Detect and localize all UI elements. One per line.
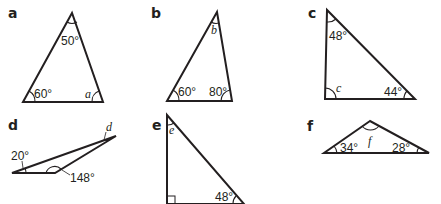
triangle-a: a 50° 60° a <box>8 5 103 102</box>
angle-label-b-left: 60° <box>178 85 196 99</box>
angle-arc-c-left <box>325 88 336 99</box>
triangles-figure: a 50° 60° a b b 60° 80° c 48° c 44° d <box>0 0 441 204</box>
angle-arc-a-right <box>92 91 99 102</box>
angle-label-c-right: 44° <box>384 85 402 99</box>
triangle-d: d 20° 148° d <box>8 117 116 185</box>
part-label-f: f <box>307 118 314 134</box>
angle-arc-a-top <box>67 22 77 23</box>
angle-label-f-top: f <box>368 134 373 148</box>
triangle-c: c 48° c 44° <box>308 5 415 99</box>
right-angle-marker-e <box>167 196 175 204</box>
angle-arc-e-right <box>233 196 236 204</box>
triangle-b: b b 60° 80° <box>151 5 232 101</box>
part-label-b: b <box>151 5 161 21</box>
part-label-d: d <box>8 117 18 133</box>
triangle-f: f f 34° 28° <box>307 118 429 155</box>
angle-label-b-top: b <box>211 23 217 37</box>
angle-label-a-top: 50° <box>61 34 79 48</box>
angle-label-c-left: c <box>336 81 342 95</box>
part-label-a: a <box>8 5 17 21</box>
angle-label-a-left: 60° <box>34 87 52 101</box>
triangle-e: e e 48° <box>152 115 244 204</box>
angle-arc-f-left <box>334 146 337 153</box>
part-label-c: c <box>308 5 316 21</box>
angle-label-e-top: e <box>169 123 175 137</box>
part-label-e: e <box>152 117 162 133</box>
angle-arc-c-top <box>327 19 336 22</box>
angle-label-d-right: d <box>106 120 113 134</box>
angle-label-b-right: 80° <box>209 85 227 99</box>
angle-arc-f-top <box>362 126 379 130</box>
leader-line-d-middle <box>62 170 70 175</box>
angle-label-e-right: 48° <box>215 190 233 204</box>
angle-label-d-middle: 148° <box>70 171 95 185</box>
angle-label-f-right: 28° <box>392 141 410 155</box>
angle-label-a-right: a <box>85 87 91 101</box>
angle-arc-c-right <box>404 91 407 99</box>
angle-label-f-left: 34° <box>340 141 358 155</box>
angle-label-c-top: 48° <box>329 29 347 43</box>
angle-label-d-left: 20° <box>11 149 29 163</box>
